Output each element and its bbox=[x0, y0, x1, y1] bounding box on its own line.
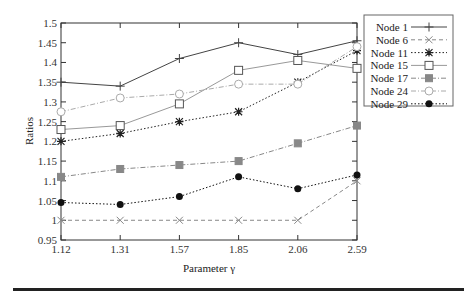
open-circle-marker-icon bbox=[175, 90, 183, 98]
legend-label: Node 17 bbox=[370, 72, 408, 84]
series-node-24 bbox=[57, 43, 361, 116]
x-tick-label: 2.06 bbox=[288, 243, 308, 255]
y-tick-label: 1.3 bbox=[43, 96, 57, 108]
open-circle-marker-icon bbox=[425, 87, 433, 95]
series-node-15 bbox=[57, 56, 361, 133]
legend-label: Node 24 bbox=[370, 85, 408, 97]
filled-circle-marker-icon bbox=[58, 199, 65, 206]
filled-circle-marker-icon bbox=[426, 100, 433, 107]
legend-label: Node 6 bbox=[376, 34, 409, 46]
y-tick-label: 1.4 bbox=[43, 56, 57, 68]
filled-circle-marker-icon bbox=[235, 173, 242, 180]
open-square-marker-icon bbox=[116, 122, 124, 130]
filled-circle-marker-icon bbox=[294, 185, 301, 192]
x-axis-title: Parameter γ bbox=[183, 262, 235, 274]
legend-label: Node 11 bbox=[371, 47, 408, 59]
open-square-marker-icon bbox=[294, 56, 302, 64]
filled-square-marker-icon bbox=[176, 162, 183, 169]
filled-square-marker-icon bbox=[117, 165, 124, 172]
x-tick-label: 1.57 bbox=[170, 243, 190, 255]
legend-label: Node 1 bbox=[376, 21, 408, 33]
legend-label: Node 15 bbox=[370, 59, 408, 71]
legend: Node 1Node 6Node 11Node 15Node 17Node 24… bbox=[364, 15, 453, 110]
y-tick-label: 1.45 bbox=[38, 37, 58, 49]
open-square-marker-icon bbox=[235, 66, 243, 74]
open-circle-marker-icon bbox=[353, 43, 361, 51]
open-circle-marker-icon bbox=[116, 94, 124, 102]
open-square-marker-icon bbox=[425, 61, 433, 69]
y-tick-label: 1.5 bbox=[43, 17, 57, 29]
line-chart: 0.9511.051.11.151.21.251.31.351.41.451.5… bbox=[0, 0, 476, 294]
legend-label: Node 29 bbox=[370, 98, 408, 110]
y-tick-label: 1.2 bbox=[43, 135, 57, 147]
filled-square-marker-icon bbox=[294, 140, 301, 147]
plus-marker-icon bbox=[234, 38, 243, 47]
y-axis: 0.9511.051.11.151.21.251.31.351.41.451.5 bbox=[38, 17, 357, 246]
series-node-11 bbox=[57, 47, 361, 146]
plot-frame bbox=[61, 23, 357, 240]
y-tick-label: 1.35 bbox=[38, 76, 58, 88]
plus-marker-icon bbox=[57, 78, 66, 87]
x-tick-label: 1.31 bbox=[111, 243, 130, 255]
star-marker-icon bbox=[175, 118, 183, 126]
open-square-marker-icon bbox=[175, 100, 183, 108]
filled-circle-marker-icon bbox=[176, 193, 183, 200]
y-tick-label: 1.25 bbox=[38, 116, 58, 128]
open-circle-marker-icon bbox=[235, 80, 243, 88]
x-tick-label: 1.12 bbox=[51, 243, 70, 255]
y-tick-label: 1.05 bbox=[38, 195, 58, 207]
series-node-1 bbox=[57, 36, 362, 90]
filled-square-marker-icon bbox=[426, 75, 433, 82]
y-axis-title: Ratios bbox=[23, 117, 35, 145]
filled-circle-marker-icon bbox=[354, 171, 361, 178]
open-square-marker-icon bbox=[353, 64, 361, 72]
y-tick-label: 1 bbox=[52, 214, 58, 226]
filled-square-marker-icon bbox=[58, 173, 65, 180]
bottom-rule bbox=[13, 288, 464, 291]
series-node-29 bbox=[58, 171, 361, 208]
plus-marker-icon bbox=[175, 54, 184, 63]
star-marker-icon bbox=[425, 49, 433, 57]
y-tick-label: 1.15 bbox=[38, 155, 58, 167]
x-tick-label: 1.85 bbox=[229, 243, 249, 255]
filled-circle-marker-icon bbox=[117, 201, 124, 208]
star-marker-icon bbox=[116, 129, 124, 137]
open-circle-marker-icon bbox=[57, 108, 65, 116]
series-layer bbox=[57, 36, 362, 224]
series-node-17 bbox=[58, 122, 361, 180]
star-marker-icon bbox=[57, 137, 65, 145]
star-marker-icon bbox=[235, 108, 243, 116]
filled-square-marker-icon bbox=[235, 158, 242, 165]
open-square-marker-icon bbox=[57, 126, 65, 134]
filled-square-marker-icon bbox=[354, 122, 361, 129]
plus-marker-icon bbox=[116, 82, 125, 91]
open-circle-marker-icon bbox=[294, 80, 302, 88]
x-tick-label: 2.59 bbox=[347, 243, 367, 255]
y-tick-label: 1.1 bbox=[43, 175, 57, 187]
